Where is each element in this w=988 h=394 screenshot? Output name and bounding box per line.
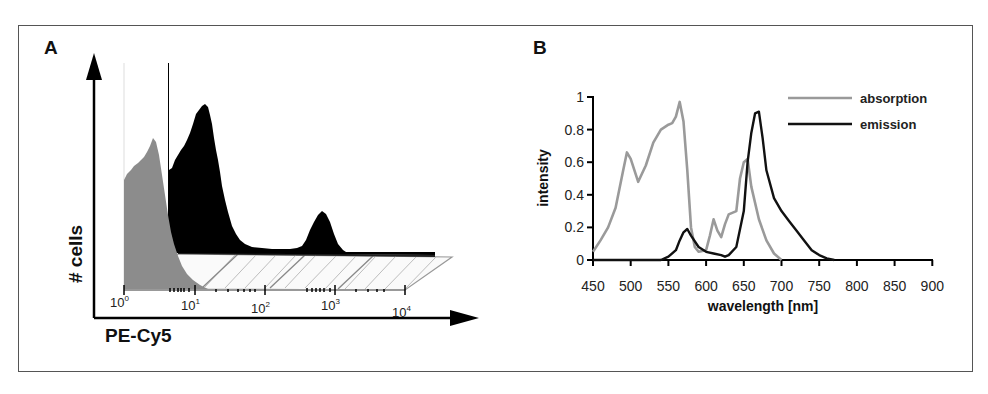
panel-a-letter: A (44, 37, 58, 58)
panel-b-x-label: wavelength [nm] (707, 298, 818, 314)
tick-label: 500 (619, 278, 643, 294)
tick-label: 0 (576, 252, 584, 268)
panel-a-x-label: PE-Cy5 (105, 325, 172, 346)
tick-label: 102 (251, 300, 270, 316)
tick-label: 550 (657, 278, 681, 294)
panel-a: A (44, 37, 479, 346)
legend-label-absorption: absorption (860, 91, 927, 106)
tick-label: 650 (732, 278, 756, 294)
panel-b: B 0 0.2 0.4 0.6 0.8 1 (533, 37, 944, 314)
tick-label: 750 (808, 278, 832, 294)
panel-a-x-axis (94, 310, 479, 326)
emission-series-line (593, 112, 834, 260)
tick-label: 0.4 (565, 187, 585, 203)
tick-label: 800 (845, 278, 869, 294)
panel-a-y-label: # cells (65, 225, 86, 283)
panel-b-y-tick-labels: 0 0.2 0.4 0.6 0.8 1 (565, 89, 585, 268)
tick-label: 450 (581, 278, 605, 294)
panel-b-y-label: intensity (535, 149, 551, 207)
arrow-up-icon (86, 53, 102, 80)
panel-b-letter: B (533, 37, 547, 58)
tick-label: 101 (181, 297, 200, 313)
tick-label: 700 (770, 278, 794, 294)
panel-b-x-tick-labels: 450 500 550 600 650 700 750 800 850 900 (581, 278, 944, 294)
panel-b-legend: absorption emission (788, 91, 927, 132)
figure-canvas: A (0, 0, 988, 394)
arrow-right-icon (450, 310, 479, 326)
stained-histogram (168, 63, 435, 255)
tick-label: 900 (921, 278, 945, 294)
tick-label: 600 (694, 278, 718, 294)
legend-label-emission: emission (860, 117, 916, 132)
tick-label: 0.6 (565, 154, 585, 170)
tick-label: 103 (321, 297, 340, 313)
tick-label: 0.8 (565, 122, 585, 138)
tick-label: 100 (110, 294, 129, 310)
panel-a-y-axis (86, 53, 102, 318)
tick-label: 1 (576, 89, 584, 105)
panel-a-tick-labels: 100 101 102 103 104 (110, 294, 411, 320)
tick-label: 850 (883, 278, 907, 294)
tick-label: 0.2 (565, 219, 585, 235)
